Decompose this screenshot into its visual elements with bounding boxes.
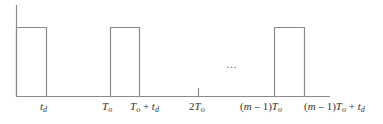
label-To: To [102, 100, 112, 116]
pulse-train-diagram: … td To To + td 2To (m – 1)To (m – 1)To … [0, 0, 383, 124]
label-To-plus-td: To + td [130, 100, 159, 116]
pulse-1 [17, 28, 47, 97]
ellipsis: … [226, 58, 238, 70]
pulse-2 [111, 28, 140, 97]
label-2To: 2To [189, 100, 205, 116]
label-td: td [40, 100, 47, 116]
label-m1-To: (m – 1)To [240, 100, 282, 116]
label-m1-To-plus-td: (m – 1)To + td [304, 100, 365, 116]
pulse-m [275, 28, 305, 97]
